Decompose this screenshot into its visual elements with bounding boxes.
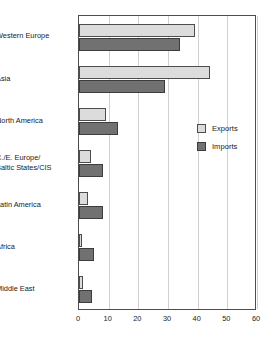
category-label-asia: Asia xyxy=(0,74,70,83)
bar-exports-latin-america xyxy=(79,192,88,205)
gridline-50 xyxy=(227,16,228,309)
category-label-western-europe: Western Europe xyxy=(0,31,70,40)
x-tick-label-10: 10 xyxy=(104,314,112,323)
bar-imports-asia xyxy=(79,80,165,93)
bar-imports-africa xyxy=(79,248,94,261)
chart-legend: ExportsImports xyxy=(197,124,238,151)
bar-exports-north-america xyxy=(79,108,106,121)
x-tick-label-40: 40 xyxy=(193,314,201,323)
bar-imports-western-europe xyxy=(79,38,180,51)
category-label-latin-america: Latin America xyxy=(0,200,70,209)
x-tick-label-20: 20 xyxy=(133,314,141,323)
gridline-20 xyxy=(138,16,139,309)
category-label-middle-east: Middle East xyxy=(0,284,70,293)
gridline-30 xyxy=(168,16,169,309)
bar-exports-c-e-europe-baltic-states-cis xyxy=(79,150,91,163)
legend-swatch-imports xyxy=(197,142,206,151)
bar-exports-africa xyxy=(79,234,82,247)
bar-exports-asia xyxy=(79,66,210,79)
legend-swatch-exports xyxy=(197,124,206,133)
x-tick-label-30: 30 xyxy=(163,314,171,323)
legend-item-imports: Imports xyxy=(197,142,238,151)
category-axis-labels: Western EuropeAsiaNorth AmericaC./E. Eur… xyxy=(0,15,76,310)
category-label-c-e-europe-baltic-states-cis: C./E. Europe/ Baltic States/CIS xyxy=(0,153,70,171)
gridline-10 xyxy=(109,16,110,309)
plot-area: ExportsImports xyxy=(78,15,256,310)
legend-item-exports: Exports xyxy=(197,124,238,133)
legend-label-exports: Exports xyxy=(212,124,238,133)
bar-chart: Western EuropeAsiaNorth AmericaC./E. Eur… xyxy=(0,0,275,348)
legend-label-imports: Imports xyxy=(212,142,237,151)
x-tick-label-50: 50 xyxy=(222,314,230,323)
gridline-60 xyxy=(257,16,258,309)
bar-exports-western-europe xyxy=(79,24,195,37)
x-tick-label-0: 0 xyxy=(76,314,80,323)
bar-imports-latin-america xyxy=(79,206,103,219)
category-label-north-america: North America xyxy=(0,116,70,125)
x-tick-label-60: 60 xyxy=(252,314,260,323)
bar-imports-north-america xyxy=(79,122,118,135)
bar-imports-middle-east xyxy=(79,290,92,303)
bar-exports-middle-east xyxy=(79,276,83,289)
gridline-40 xyxy=(198,16,199,309)
bar-imports-c-e-europe-baltic-states-cis xyxy=(79,164,103,177)
category-label-africa: Africa xyxy=(0,242,70,251)
x-axis: 0102030405060 xyxy=(78,312,256,332)
